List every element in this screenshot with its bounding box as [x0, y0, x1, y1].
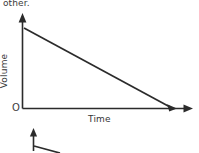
next-figure-data-line — [34, 146, 60, 153]
figure-page: other. Volume Time O — [0, 0, 199, 153]
y-axis-label: Volume — [0, 54, 9, 89]
volume-time-graph — [0, 0, 199, 153]
data-series-arrowhead-icon — [167, 104, 177, 111]
x-axis-label: Time — [88, 114, 111, 124]
x-axis-arrowhead-icon — [184, 105, 194, 113]
data-series-line — [24, 28, 170, 107]
origin-label: O — [12, 102, 20, 113]
y-axis-arrowhead-icon — [19, 13, 27, 23]
next-figure-arrowhead-icon — [30, 128, 37, 137]
